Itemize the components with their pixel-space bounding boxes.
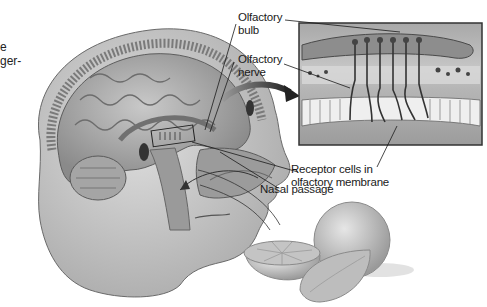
diagram-illustration [0,0,487,307]
label-olfactory-nerve: Olfactory nerve [238,53,282,79]
margin-text-line-1: e [0,40,7,54]
olfactory-diagram: e ger- Olfactory bulb Olfactory nerve Re… [0,0,487,307]
label-nasal-passage: Nasal passage [260,183,333,196]
margin-text-line-2: ger- [0,54,21,68]
oranges [244,202,414,302]
inset-receptor-view [299,23,482,145]
label-olfactory-bulb: Olfactory bulb [238,11,282,37]
